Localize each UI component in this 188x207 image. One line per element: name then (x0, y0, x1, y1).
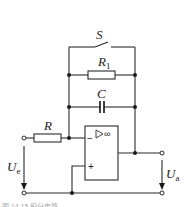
input-ground-terminal (22, 191, 26, 195)
infinity-symbol: ∞ (104, 129, 110, 139)
output-node (133, 151, 137, 155)
inverting-input-sign: − (87, 133, 93, 144)
circuit-diagram: S R1 C R − + (0, 0, 188, 207)
r1-label: R1 (97, 54, 110, 71)
figure-caption: 图 14.15 积分电路 (2, 202, 58, 207)
switch-label: S (96, 27, 103, 42)
input-voltage-label: Ue (7, 159, 20, 176)
ground-node (70, 191, 74, 195)
input-terminal (22, 136, 26, 140)
resistor-r1: R1 (67, 54, 137, 79)
input-voltage-arrow: Ue (7, 146, 27, 190)
switch-s: S (69, 27, 135, 47)
capacitor-label: C (97, 86, 106, 101)
capacitor-c: C (67, 86, 137, 113)
output-ground-terminal (160, 191, 164, 195)
noninverting-input-sign: + (88, 161, 94, 172)
output-terminal (160, 151, 164, 155)
input-resistor-r: R (26, 118, 85, 142)
output-voltage-arrow: Ua (159, 160, 179, 190)
inverting-node (67, 136, 71, 140)
output-voltage-label: Ua (166, 166, 179, 183)
input-resistor-label: R (43, 118, 52, 133)
opamp: − + ∞ (72, 126, 160, 193)
